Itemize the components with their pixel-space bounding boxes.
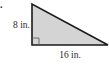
base-label: 16 in. bbox=[59, 50, 81, 60]
problem-number: . bbox=[0, 0, 3, 10]
height-label: 8 in. bbox=[13, 20, 30, 30]
triangle-shape bbox=[32, 4, 108, 45]
right-triangle-diagram: . 8 in. 16 in. bbox=[0, 0, 109, 67]
